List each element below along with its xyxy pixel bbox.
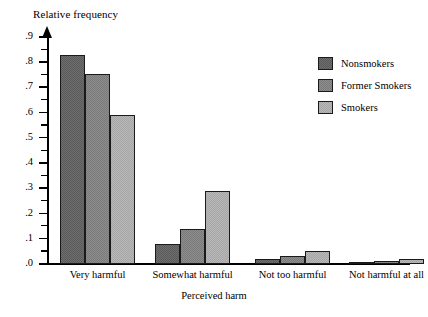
y-axis-tick	[39, 86, 47, 88]
bar	[374, 261, 399, 264]
y-axis-tick-label: .2	[7, 208, 33, 219]
bar	[349, 262, 374, 265]
bar-chart: Relative frequency .0.1.2.3.4.5.6.7.8.9 …	[0, 0, 428, 317]
legend-label: Smokers	[341, 102, 378, 113]
legend-swatch	[318, 57, 333, 70]
y-axis-tick-label: .8	[7, 56, 33, 67]
y-axis-tick-label: .9	[7, 31, 33, 42]
y-axis-tick-label: .1	[7, 233, 33, 244]
legend-swatch	[318, 79, 333, 92]
y-axis-tick-label: .0	[7, 258, 33, 269]
y-axis-tick-label: .3	[7, 182, 33, 193]
bar	[280, 256, 305, 264]
legend-item: Smokers	[318, 99, 411, 116]
bar	[180, 229, 205, 264]
y-axis-title: Relative frequency	[33, 8, 118, 20]
bar	[255, 259, 280, 264]
x-axis-category-label: Very harmful	[70, 269, 126, 280]
bar	[305, 251, 330, 264]
bar	[399, 259, 424, 264]
y-axis-tick	[39, 137, 47, 139]
y-axis-tick	[39, 213, 47, 215]
x-axis-category-label: Somewhat harmful	[152, 269, 232, 280]
legend-item: Former Smokers	[318, 77, 411, 94]
bar	[60, 55, 85, 264]
y-axis-tick	[39, 61, 47, 63]
y-axis-tick-label: .7	[7, 81, 33, 92]
x-axis-category-label: Not harmful at all	[349, 269, 424, 280]
y-axis-tick-label: .6	[7, 107, 33, 118]
y-axis-tick	[39, 238, 47, 240]
legend-item: Nonsmokers	[318, 55, 411, 72]
legend-label: Nonsmokers	[341, 58, 394, 69]
y-axis-tick	[39, 36, 47, 38]
y-axis-tick	[39, 112, 47, 114]
y-axis-tick	[39, 162, 47, 164]
bar	[205, 191, 230, 264]
y-axis-tick-label: .5	[7, 132, 33, 143]
y-axis-tick	[39, 187, 47, 189]
y-axis-tick	[39, 263, 47, 265]
x-axis-category-label: Not too harmful	[259, 269, 327, 280]
legend: NonsmokersFormer SmokersSmokers	[318, 55, 411, 121]
x-axis-title: Perceived harm	[0, 290, 428, 301]
bar	[155, 244, 180, 264]
y-axis-tick-label: .4	[7, 157, 33, 168]
bar	[110, 115, 135, 264]
bar	[85, 74, 110, 264]
legend-swatch	[318, 101, 333, 114]
legend-label: Former Smokers	[341, 80, 411, 91]
